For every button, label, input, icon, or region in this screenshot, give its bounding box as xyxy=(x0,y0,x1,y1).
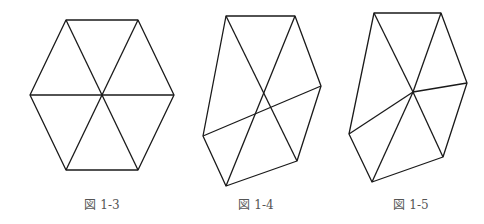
interior-edge xyxy=(413,92,443,157)
figure-1-3 xyxy=(30,20,174,170)
interior-edge xyxy=(203,86,321,136)
interior-edge xyxy=(374,13,413,92)
hexagon-outline xyxy=(349,13,467,182)
interior-edge xyxy=(413,13,441,92)
diagram-canvas xyxy=(0,0,484,224)
caption-figure-1-3: 図 1-3 xyxy=(84,195,119,212)
figure-1-5 xyxy=(349,13,467,182)
interior-edge xyxy=(413,83,467,92)
figure-1-4 xyxy=(203,16,321,186)
hexagon-outline xyxy=(203,16,321,186)
caption-figure-1-4: 図 1-4 xyxy=(238,195,273,212)
caption-figure-1-5: 図 1-5 xyxy=(393,195,428,212)
